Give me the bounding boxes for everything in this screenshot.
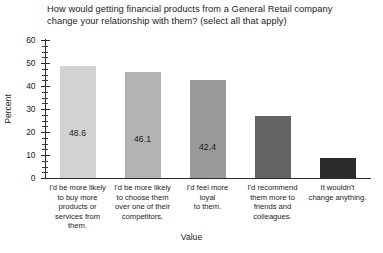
y-tick-minor <box>42 92 48 93</box>
y-tick-label: 10 <box>26 150 35 160</box>
y-tick-minor <box>42 144 48 145</box>
y-tick-label: 20 <box>26 127 35 137</box>
y-tick-label: 0 <box>31 173 36 183</box>
chart-title: How would getting financial products fro… <box>47 3 357 27</box>
y-tick-minor <box>42 46 48 47</box>
y-tick-label: 40 <box>26 81 35 91</box>
bar[interactable]: 42.4 <box>190 80 226 178</box>
y-tick-minor <box>42 98 48 99</box>
y-tick-minor <box>42 149 48 150</box>
x-category-label: It wouldn't change anything. <box>307 183 368 202</box>
y-tick-minor <box>42 172 48 173</box>
y-tick-minor <box>42 69 48 70</box>
bar-value-label: 48.6 <box>69 128 86 138</box>
y-tick-minor <box>42 75 48 76</box>
y-tick-major: 10 <box>41 155 50 156</box>
y-tick-minor <box>42 57 48 58</box>
bar-chart: How would getting financial products fro… <box>0 0 383 253</box>
bar-value-label: 46.1 <box>134 134 151 144</box>
y-tick-minor <box>42 103 48 104</box>
bar[interactable]: 26.8 <box>255 116 291 178</box>
y-tick-major: 60 <box>41 40 50 41</box>
bar[interactable]: 8.6 <box>320 158 356 178</box>
y-tick-minor <box>42 80 48 81</box>
y-tick-label: 60 <box>26 35 35 45</box>
y-tick-minor <box>42 121 48 122</box>
bar[interactable]: 48.6 <box>60 66 96 178</box>
y-tick-major: 50 <box>41 63 50 64</box>
plot-area: 010203040506048.646.142.426.88.6 <box>45 40 370 178</box>
y-tick-major: 0 <box>41 178 50 179</box>
bar[interactable]: 46.1 <box>125 72 161 178</box>
y-tick-minor <box>42 52 48 53</box>
y-tick-minor <box>42 161 48 162</box>
bar-value-label: 8.6 <box>331 220 343 230</box>
y-tick-label: 50 <box>26 58 35 68</box>
y-tick-major: 20 <box>41 132 50 133</box>
y-tick-minor <box>42 138 48 139</box>
y-tick-major: 30 <box>41 109 50 110</box>
y-tick-label: 30 <box>26 104 35 114</box>
x-category-label: I'd be more likely to buy more products … <box>47 183 108 231</box>
x-category-label: I'd feel more loyal to them. <box>177 183 238 212</box>
x-category-label: I'd be more likely to choose them over o… <box>112 183 173 221</box>
bar-value-label: 42.4 <box>199 142 216 152</box>
y-tick-major: 40 <box>41 86 50 87</box>
x-category-label: I'd recommend them more to friends and c… <box>242 183 303 221</box>
y-axis-title: Percent <box>3 94 13 124</box>
y-tick-minor <box>42 126 48 127</box>
x-axis-title: Value <box>0 232 383 242</box>
y-tick-minor <box>42 167 48 168</box>
y-tick-minor <box>42 115 48 116</box>
x-axis-line <box>45 178 371 179</box>
